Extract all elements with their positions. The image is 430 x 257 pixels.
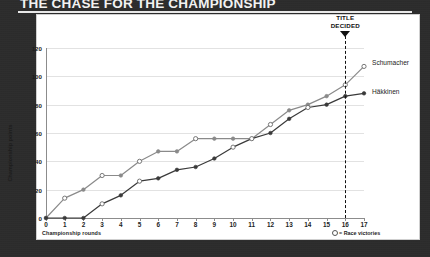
y-axis-label: Championship points — [7, 113, 13, 193]
chart-card — [36, 14, 420, 240]
title-decided-line1: TITLE — [336, 14, 354, 21]
title-decided-dashed-line — [345, 36, 346, 218]
page-title: THE CHASE FOR THE CHAMPIONSHIP — [20, 0, 276, 11]
series-label-hakkinen: Häkkinen — [372, 88, 400, 95]
series-label-schumacher: Schumacher — [372, 59, 409, 66]
open-circle-icon — [332, 230, 338, 236]
title-decided-line2: DECIDED — [331, 22, 360, 29]
x-axis-label: Championship rounds — [42, 230, 101, 236]
title-decided-annotation: TITLE DECIDED — [306, 14, 384, 30]
headline-divider — [18, 11, 412, 13]
legend-race-victories: = Race victories — [332, 230, 380, 236]
page-background: THE CHASE FOR THE CHAMPIONSHIP 020406080… — [0, 0, 430, 257]
legend-note-text: = Race victories — [339, 230, 380, 236]
